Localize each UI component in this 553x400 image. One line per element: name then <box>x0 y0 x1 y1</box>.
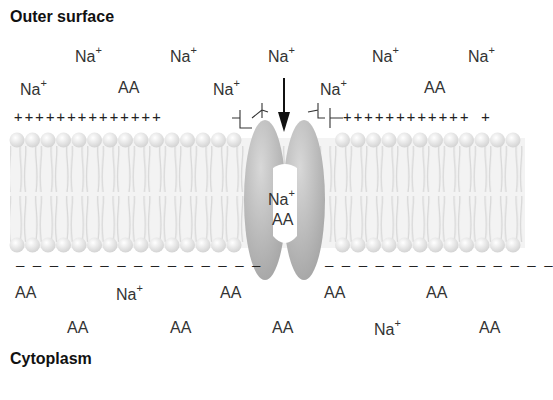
amino-acid-label: AA <box>324 285 345 301</box>
sodium-ion-label: Na+ <box>116 285 143 303</box>
sodium-ion-label: Na+ <box>374 320 401 338</box>
amino-acid-label: AA <box>170 320 191 336</box>
amino-acid-label: AA <box>272 320 293 336</box>
transport-arrow-icon <box>278 78 290 132</box>
inner-negative-charges-right: – – – – – – – – – – – – – – <box>325 258 553 272</box>
sodium-ion-label: Na+ <box>75 47 102 65</box>
outer-positive-charges-right: ++++++++++++ + <box>343 110 492 124</box>
amino-acid-label: AA <box>272 212 293 228</box>
sodium-ion-label: Na+ <box>268 47 295 65</box>
amino-acid-label: AA <box>118 80 139 96</box>
sodium-ion-label: Na+ <box>320 80 347 98</box>
sodium-ion-label: Na+ <box>20 80 47 98</box>
amino-acid-label: AA <box>424 80 445 96</box>
amino-acid-label: AA <box>67 320 88 336</box>
sodium-ion-label: Na+ <box>170 47 197 65</box>
amino-acid-label: AA <box>426 285 447 301</box>
sodium-ion-label: Na+ <box>268 190 295 208</box>
sodium-ion-label: Na+ <box>213 80 240 98</box>
inner-negative-charges-left: – – – – – – – – – – – – – – – <box>16 258 260 272</box>
sodium-ion-label: Na+ <box>468 47 495 65</box>
sodium-ion-label: Na+ <box>372 47 399 65</box>
amino-acid-label: AA <box>15 285 36 301</box>
outer-positive-charges-left: ++++++++++++++ <box>14 110 163 124</box>
amino-acid-label: AA <box>220 285 241 301</box>
amino-acid-label: AA <box>479 320 500 336</box>
